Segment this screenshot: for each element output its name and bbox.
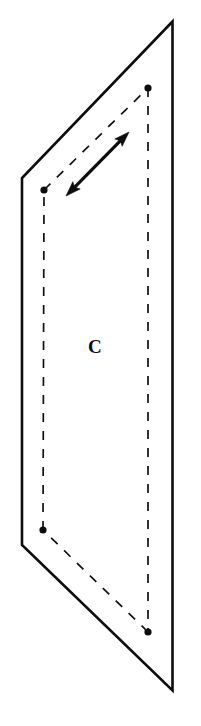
arrow-shaft	[72, 138, 123, 190]
figure-root: C	[0, 0, 201, 726]
dot-bottom-right	[144, 628, 151, 635]
plane-label-c: C	[88, 337, 102, 356]
plane-diagram-svg	[0, 0, 201, 726]
dot-top-left	[40, 186, 47, 193]
dot-bottom-left	[39, 526, 46, 533]
dot-top-right	[144, 84, 151, 91]
dashed-edge-left	[43, 190, 44, 530]
